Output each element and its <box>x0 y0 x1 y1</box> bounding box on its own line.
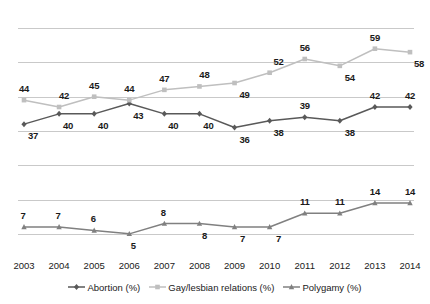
data-label-s2-p9: 11 <box>335 198 345 208</box>
series-1-point-2 <box>92 94 97 99</box>
data-label-s2-p0: 7 <box>20 211 25 221</box>
line-chart: 3740404340403638393842424442454447484952… <box>0 0 430 304</box>
series-0-point-9 <box>337 118 342 124</box>
legend-marker-diamond-icon <box>68 282 85 292</box>
legend-marker-square-icon <box>149 282 166 292</box>
series-0-point-2 <box>92 111 97 117</box>
series-1-point-10 <box>373 46 378 51</box>
data-label-s1-p0: 44 <box>19 84 29 94</box>
x-tick-2011: 2011 <box>295 260 315 271</box>
series-0-point-6 <box>232 125 237 131</box>
series-1-point-0 <box>22 98 27 103</box>
x-tick-2013: 2013 <box>364 260 385 271</box>
data-label-s0-p3: 43 <box>133 111 143 121</box>
series-0-point-8 <box>302 114 307 120</box>
series-1-point-7 <box>267 70 272 75</box>
data-label-s2-p7: 7 <box>276 234 281 244</box>
legend-label-1: Gay/lesbian relations (%) <box>168 282 274 293</box>
series-1-point-4 <box>162 88 167 93</box>
series-line-0 <box>24 104 410 128</box>
series-1-point-1 <box>57 105 62 110</box>
series-1-point-11 <box>408 50 413 55</box>
data-label-s2-p2: 6 <box>91 215 96 225</box>
x-tick-2004: 2004 <box>49 260 70 271</box>
series-1-point-6 <box>232 81 237 86</box>
data-label-s0-p0: 37 <box>28 131 38 141</box>
data-label-s0-p7: 38 <box>274 128 284 138</box>
data-label-s1-p2: 45 <box>89 81 99 91</box>
data-label-s2-p5: 8 <box>202 231 207 241</box>
data-label-s2-p10: 14 <box>370 187 380 197</box>
series-1-point-9 <box>338 64 343 69</box>
data-label-s2-p8: 11 <box>300 198 310 208</box>
data-label-s2-p4: 8 <box>161 208 166 218</box>
data-label-s1-p1: 42 <box>59 91 69 101</box>
legend-item-2[interactable]: Polygamy (%) <box>283 282 361 293</box>
plot-area: 3740404340403638393842424442454447484952… <box>0 0 430 258</box>
data-label-s0-p1: 40 <box>63 121 73 131</box>
series-1-point-3 <box>127 98 132 103</box>
x-tick-2005: 2005 <box>84 260 105 271</box>
data-label-s1-p3: 44 <box>124 84 134 94</box>
data-label-s1-p5: 48 <box>199 71 209 81</box>
series-0-point-7 <box>267 118 272 124</box>
data-label-s1-p9: 54 <box>345 73 355 83</box>
data-label-s0-p2: 40 <box>98 121 108 131</box>
legend-label-2: Polygamy (%) <box>302 282 361 293</box>
x-tick-2003: 2003 <box>13 260 34 271</box>
data-label-s1-p11: 58 <box>414 59 424 69</box>
series-line-2 <box>24 203 410 234</box>
legend-point-1 <box>155 285 160 290</box>
data-label-s1-p10: 59 <box>370 33 380 43</box>
data-label-s1-p8: 56 <box>300 43 310 53</box>
x-tick-2014: 2014 <box>399 260 420 271</box>
data-label-s1-p4: 47 <box>159 74 169 84</box>
chart-legend: Abortion (%)Gay/lesbian relations (%)Pol… <box>0 279 430 295</box>
data-label-s0-p8: 39 <box>300 102 310 112</box>
data-label-s2-p3: 5 <box>131 241 136 251</box>
x-axis: 2003200420052006200720082009201020112012… <box>0 258 430 278</box>
legend-marker-triangle-icon <box>283 282 300 292</box>
data-label-s0-p6: 36 <box>239 135 249 145</box>
legend-item-0[interactable]: Abortion (%) <box>68 282 140 293</box>
data-label-s2-p1: 7 <box>56 211 61 221</box>
series-0-point-1 <box>56 111 61 117</box>
x-tick-2009: 2009 <box>224 260 245 271</box>
x-tick-2012: 2012 <box>329 260 350 271</box>
data-label-s1-p7: 52 <box>274 57 284 67</box>
data-label-s1-p6: 49 <box>239 90 249 100</box>
data-label-s0-p10: 42 <box>370 91 380 101</box>
series-0-point-11 <box>407 104 412 110</box>
x-tick-2007: 2007 <box>154 260 175 271</box>
series-0-point-5 <box>197 111 202 117</box>
legend-item-1[interactable]: Gay/lesbian relations (%) <box>149 282 274 293</box>
data-label-s0-p9: 38 <box>345 128 355 138</box>
series-0-point-0 <box>21 121 26 127</box>
series-1-point-5 <box>197 84 202 89</box>
series-0-point-10 <box>372 104 377 110</box>
x-tick-2006: 2006 <box>119 260 140 271</box>
series-0-point-4 <box>162 111 167 117</box>
series-1-point-8 <box>302 57 307 62</box>
data-label-s2-p11: 14 <box>405 187 415 197</box>
data-label-s2-p6: 7 <box>240 234 245 244</box>
data-label-s0-p11: 42 <box>405 91 415 101</box>
x-tick-2008: 2008 <box>189 260 210 271</box>
x-tick-2010: 2010 <box>259 260 280 271</box>
legend-label-0: Abortion (%) <box>87 282 140 293</box>
legend-point-0 <box>74 284 79 290</box>
data-label-s0-p5: 40 <box>203 121 213 131</box>
data-label-s0-p4: 40 <box>168 121 178 131</box>
